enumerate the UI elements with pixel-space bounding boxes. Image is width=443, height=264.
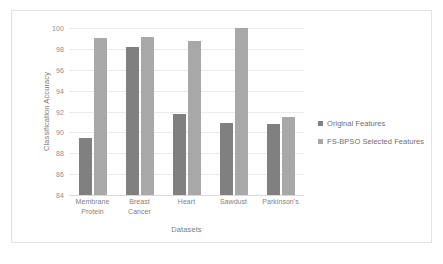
bar[interactable] bbox=[141, 37, 154, 195]
bar[interactable] bbox=[235, 28, 248, 195]
y-axis-title: Classification Accuracy bbox=[40, 28, 52, 195]
y-axis-tick-label: 100 bbox=[52, 25, 64, 32]
legend-label: FS-BPSO Selected Features bbox=[327, 137, 424, 146]
bar-group bbox=[116, 28, 163, 195]
gridline: 84 bbox=[69, 195, 304, 196]
y-axis-tick-label: 94 bbox=[56, 87, 64, 94]
plot-area: 8486889092949698100 bbox=[69, 28, 304, 195]
legend-item[interactable]: Original Features bbox=[318, 119, 424, 128]
x-axis-tick-labels: MembraneProteinBreastCancerHeartSawdustP… bbox=[69, 197, 304, 227]
y-axis-tick-label: 84 bbox=[56, 192, 64, 199]
bar[interactable] bbox=[267, 124, 280, 195]
bars-layer bbox=[69, 28, 304, 195]
bar-group bbox=[257, 28, 304, 195]
bar[interactable] bbox=[220, 123, 233, 195]
legend-swatch-icon bbox=[318, 121, 323, 126]
x-axis-tick-label: Parkinson's bbox=[257, 197, 304, 207]
x-axis-title: Datasets bbox=[69, 225, 304, 234]
y-axis-tick-label: 86 bbox=[56, 171, 64, 178]
legend-swatch-icon bbox=[318, 139, 323, 144]
bar[interactable] bbox=[282, 117, 295, 195]
chart-legend: Original FeaturesFS-BPSO Selected Featur… bbox=[318, 119, 424, 155]
bar-group bbox=[69, 28, 116, 195]
bar[interactable] bbox=[173, 114, 186, 195]
bar[interactable] bbox=[94, 38, 107, 195]
bar-group bbox=[163, 28, 210, 195]
y-axis-tick-label: 92 bbox=[56, 108, 64, 115]
y-axis-tick-label: 88 bbox=[56, 150, 64, 157]
x-axis-tick-label: Heart bbox=[163, 197, 210, 207]
x-axis-tick-label: MembraneProtein bbox=[69, 197, 116, 216]
bar[interactable] bbox=[188, 41, 201, 195]
bar[interactable] bbox=[79, 138, 92, 195]
y-axis-title-label: Classification Accuracy bbox=[42, 72, 51, 151]
chart-container: Classification Accuracy 8486889092949698… bbox=[11, 10, 432, 243]
bar[interactable] bbox=[126, 47, 139, 195]
y-axis-tick-label: 98 bbox=[56, 45, 64, 52]
x-axis-tick-label: BreastCancer bbox=[116, 197, 163, 216]
y-axis-tick-label: 96 bbox=[56, 66, 64, 73]
x-axis-tick-label: Sawdust bbox=[210, 197, 257, 207]
bar-group bbox=[210, 28, 257, 195]
y-axis-tick-label: 90 bbox=[56, 129, 64, 136]
legend-label: Original Features bbox=[327, 119, 385, 128]
legend-item[interactable]: FS-BPSO Selected Features bbox=[318, 137, 424, 146]
